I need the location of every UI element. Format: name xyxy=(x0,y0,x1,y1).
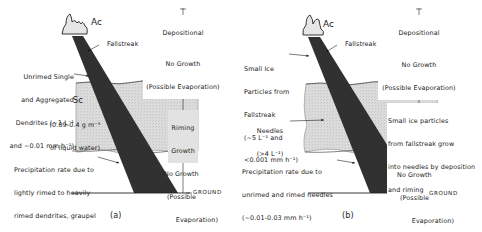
fallstreak-label-b: Fallstreak xyxy=(345,41,376,49)
label-line: Depositional xyxy=(394,30,444,38)
label-line: Evaporation) xyxy=(384,218,454,226)
label-line: Particles from xyxy=(244,89,298,97)
caption-a: (a) xyxy=(110,211,121,220)
precip-rate-label-b: Precipitation rate due to unrimed and ri… xyxy=(242,154,333,230)
ground-label-b: GROUND xyxy=(429,190,458,198)
label-line: No Growth xyxy=(384,172,454,180)
ac-label-a: Ac xyxy=(91,17,102,27)
precip-rate-label-a: Precipitation rate due to lightly rimed … xyxy=(14,152,96,232)
label-line: Growth xyxy=(168,148,198,156)
label-line: Evaporation) xyxy=(150,217,218,225)
label-line: No Growth xyxy=(143,61,223,69)
label-line: Unrimed Single xyxy=(6,74,74,82)
fallstreak-label-a: Fallstreak xyxy=(107,41,138,49)
caption-b: (b) xyxy=(342,211,354,220)
label-line: (0.09-0.4 g m⁻³ xyxy=(40,122,110,130)
label-line: No Growth xyxy=(378,62,460,70)
no-growth-top-label-b: No Growth (Possible Evaporation) xyxy=(378,47,460,100)
label-line: lightly rimed to heavily xyxy=(14,190,96,198)
sc-label: Sc xyxy=(58,96,98,105)
label-line: Needles xyxy=(250,128,290,136)
ac-label-b: Ac xyxy=(323,19,334,29)
label-line: rimed dendrites, graupel xyxy=(14,213,96,221)
label-line: No Growth xyxy=(150,171,218,179)
ground-label-a: GROUND xyxy=(193,189,222,197)
label-line: Depositional xyxy=(158,30,208,38)
label-line: Precipitation rate due to xyxy=(242,169,333,177)
label-line: from fallstreak grow xyxy=(388,141,475,149)
label-line: (~0.01-0.03 mm h⁻¹) xyxy=(242,215,333,223)
label-line: Precipitation rate due to xyxy=(14,167,96,175)
label-line: Small Ice xyxy=(244,66,298,74)
ac-cloud-b xyxy=(303,15,324,35)
no-growth-top-label-a: No Growth (Possible Evaporation) xyxy=(143,46,223,99)
label-line: Riming xyxy=(168,125,198,133)
label-line: (Possible Evaporation) xyxy=(143,84,223,92)
label-line: unrimed and rimed needles xyxy=(242,192,333,200)
label-line: Small ice particles xyxy=(388,118,475,126)
label-line: (Possible Evaporation) xyxy=(378,85,460,93)
ac-cloud-a xyxy=(62,14,87,34)
